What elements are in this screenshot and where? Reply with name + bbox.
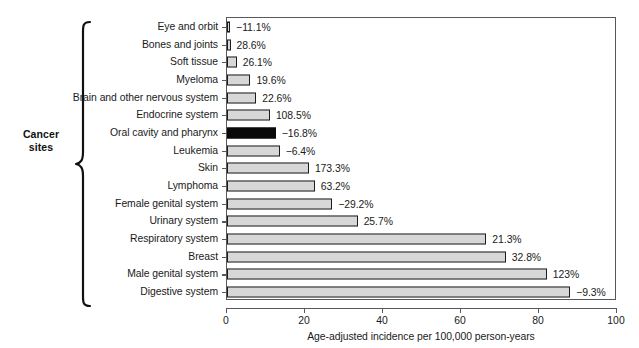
bar-value-label: 19.6%	[256, 74, 285, 85]
x-axis-tick	[382, 308, 383, 313]
x-axis-tick	[616, 308, 617, 313]
category-label: Endocrine system	[58, 109, 218, 120]
category-label: Leukemia	[58, 144, 218, 155]
bar-value-label: 63.2%	[321, 181, 350, 192]
plot-area: −11.1%28.6%26.1%19.6%22.6%108.5%−16.8%−6…	[226, 17, 616, 300]
bar	[227, 92, 256, 103]
category-label: Skin	[58, 162, 218, 173]
x-axis-tick	[538, 308, 539, 313]
category-label: Brain and other nervous system	[58, 91, 218, 102]
bar	[227, 127, 276, 138]
bar	[227, 110, 270, 121]
x-axis-tick	[460, 308, 461, 313]
x-axis-tick-label: 0	[223, 315, 229, 326]
category-label: Soft tissue	[58, 56, 218, 67]
bar	[227, 287, 570, 298]
category-label: Lymphoma	[58, 180, 218, 191]
bar-value-label: −6.4%	[286, 145, 316, 156]
bar-value-label: 22.6%	[262, 92, 291, 103]
bar-value-label: 28.6%	[237, 39, 266, 50]
bar-value-label: −16.8%	[282, 127, 317, 138]
category-label: Respiratory system	[58, 233, 218, 244]
bar-value-label: 173.3%	[315, 163, 350, 174]
bar-value-label: −29.2%	[338, 198, 373, 209]
bar-value-label: 108.5%	[276, 110, 311, 121]
category-label: Male genital system	[58, 268, 218, 279]
bar-value-label: 21.3%	[492, 234, 521, 245]
category-label: Urinary system	[58, 215, 218, 226]
x-axis-tick	[226, 308, 227, 313]
bar-value-label: −11.1%	[236, 21, 270, 32]
category-label: Female genital system	[58, 197, 218, 208]
category-label-list: Eye and orbitBones and jointsSoft tissue…	[58, 17, 218, 300]
category-label: Breast	[58, 250, 218, 261]
bar	[227, 251, 506, 262]
bar	[227, 57, 237, 68]
bar-value-label: −9.3%	[576, 287, 606, 298]
bar-value-label: 123%	[553, 269, 579, 280]
bar	[227, 216, 358, 227]
bar	[227, 21, 230, 32]
x-axis-tick-label: 20	[298, 315, 310, 326]
bar	[227, 181, 315, 192]
bar-value-label: 32.8%	[512, 251, 541, 262]
bar	[227, 39, 231, 50]
x-axis-tick-label: 80	[532, 315, 544, 326]
bar	[227, 145, 280, 156]
x-axis-tick-label: 40	[376, 315, 388, 326]
category-label: Bones and joints	[58, 38, 218, 49]
category-label: Digestive system	[58, 286, 218, 297]
bar-value-label: 26.1%	[243, 57, 272, 68]
bars-container: −11.1%28.6%26.1%19.6%22.6%108.5%−16.8%−6…	[227, 18, 615, 299]
x-axis-tick-label: 100	[607, 315, 624, 326]
x-axis-title: Age-adjusted incidence per 100,000 perso…	[226, 331, 616, 342]
category-label: Eye and orbit	[58, 20, 218, 31]
category-label: Myeloma	[58, 73, 218, 84]
x-axis-tick	[304, 308, 305, 313]
x-axis-tick-label: 60	[454, 315, 466, 326]
bar	[227, 74, 250, 85]
bar-value-label: 25.7%	[364, 216, 393, 227]
bar	[227, 269, 547, 280]
bar	[227, 163, 309, 174]
cancer-incidence-bar-chart: Cancer sites Eye and orbitBones and join…	[0, 0, 639, 348]
bar	[227, 234, 486, 245]
bar	[227, 198, 332, 209]
x-axis-line	[226, 308, 616, 309]
category-label: Oral cavity and pharynx	[58, 126, 218, 137]
